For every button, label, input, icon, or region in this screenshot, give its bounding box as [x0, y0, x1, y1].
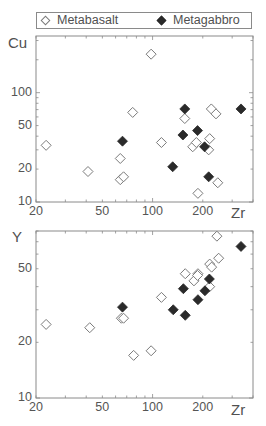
x-tick-label: 100 — [142, 204, 163, 218]
y-tick-label: 100 — [11, 85, 32, 99]
legend-item-metagabbro: Metagabbro — [155, 13, 240, 28]
x-tick-label: 50 — [95, 400, 109, 414]
metagabbro-point — [193, 295, 203, 305]
metabasalt-point — [214, 253, 224, 263]
y-axis-label-y: Y — [12, 228, 22, 245]
x-tick-label: 100 — [142, 400, 163, 414]
metabasalt-point — [41, 319, 51, 329]
y-tick-label: 10 — [18, 194, 32, 208]
metabasalt-point — [115, 153, 125, 163]
x-tick-label: 200 — [192, 204, 213, 218]
metabasalt-point — [156, 292, 166, 302]
metagabbro-point — [117, 302, 127, 312]
metabasalt-point — [180, 269, 190, 279]
metabasalt-point — [83, 167, 93, 177]
metagabbro-point — [236, 241, 246, 251]
metabasalt-point — [156, 138, 166, 148]
metabasalt-point — [146, 346, 156, 356]
y-axis-label-cu: Cu — [8, 34, 27, 51]
metabasalt-point — [180, 114, 190, 124]
metabasalt-point — [146, 49, 156, 59]
plot-panel-y — [36, 231, 253, 398]
x-axis-label-zr-lower: Zr — [231, 401, 245, 418]
y-tick-label: 10 — [18, 390, 32, 404]
metagabbro-point — [204, 274, 214, 284]
metabasalt-point — [85, 323, 95, 333]
metagabbro-point — [117, 136, 127, 146]
filled-diamond-icon — [157, 15, 167, 25]
legend-item-metabasalt: Metabasalt — [39, 13, 118, 28]
metabasalt-point — [129, 350, 139, 360]
metabasalt-point — [41, 140, 51, 150]
metagabbro-point — [168, 162, 178, 172]
metagabbro-point — [236, 104, 246, 114]
metagabbro-point — [204, 172, 214, 182]
metagabbro-point — [178, 284, 188, 294]
metabasalt-point — [193, 188, 203, 198]
y-tick-label: 50 — [18, 118, 32, 132]
metagabbro-point — [178, 130, 188, 140]
plot-frame — [36, 36, 253, 202]
metabasalt-point — [212, 231, 222, 241]
metabasalt-point — [128, 107, 138, 117]
metabasalt-point — [213, 178, 223, 188]
legend: Metabasalt Metagabbro — [36, 12, 252, 29]
y-tick-label: 20 — [18, 161, 32, 175]
metagabbro-point — [180, 104, 190, 114]
metagabbro-point — [180, 310, 190, 320]
x-tick-label: 200 — [192, 400, 213, 414]
metagabbro-point — [168, 305, 178, 315]
x-axis-label-zr-upper: Zr — [231, 204, 245, 221]
y-tick-label: 50 — [18, 261, 32, 275]
y-tick-label: 20 — [18, 334, 32, 348]
legend-label-metabasalt: Metabasalt — [57, 13, 118, 27]
open-diamond-icon — [41, 15, 51, 25]
x-tick-label: 50 — [95, 204, 109, 218]
metabasalt-point — [205, 134, 215, 144]
plot-panel-cu — [36, 36, 253, 202]
metagabbro-point — [193, 126, 203, 136]
legend-label-metagabbro: Metagabbro — [173, 13, 240, 27]
